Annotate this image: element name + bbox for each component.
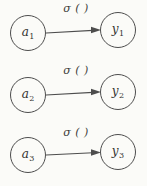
node-y2-label: y2 [112, 85, 124, 100]
diagram-row-2: σ ( ) a2 y2 [0, 62, 147, 124]
edge-label-sigma-2: σ ( ) [57, 64, 95, 77]
arrow-line [46, 153, 93, 155]
node-y3-label: y3 [112, 145, 124, 160]
node-y2: y2 [100, 74, 136, 110]
node-a2: a2 [10, 77, 46, 113]
arrow-line [46, 30, 93, 33]
node-y1: y1 [100, 12, 136, 48]
node-a1: a1 [10, 15, 46, 51]
diagram-canvas: σ ( ) a1 y1 σ ( ) a2 y2 σ ( ) a3 [0, 0, 147, 186]
node-a2-label: a2 [22, 88, 35, 103]
edge-label-sigma-1: σ ( ) [57, 2, 95, 15]
node-a1-label: a1 [22, 26, 35, 41]
node-y3: y3 [100, 134, 136, 170]
arrow-line [46, 92, 93, 95]
node-y1-label: y1 [112, 23, 124, 38]
diagram-row-3: σ ( ) a3 y3 [0, 124, 147, 186]
node-a3-label: a3 [22, 148, 35, 163]
edge-label-sigma-3: σ ( ) [57, 126, 95, 139]
diagram-row-1: σ ( ) a1 y1 [0, 0, 147, 62]
node-a3: a3 [10, 137, 46, 173]
